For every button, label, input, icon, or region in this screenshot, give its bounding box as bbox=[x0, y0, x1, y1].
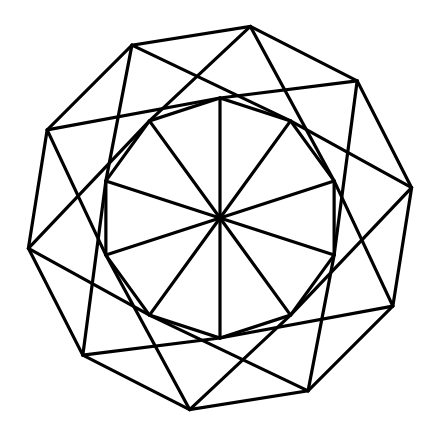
decagon-star-diagram bbox=[0, 0, 439, 437]
figure-root bbox=[0, 0, 439, 437]
